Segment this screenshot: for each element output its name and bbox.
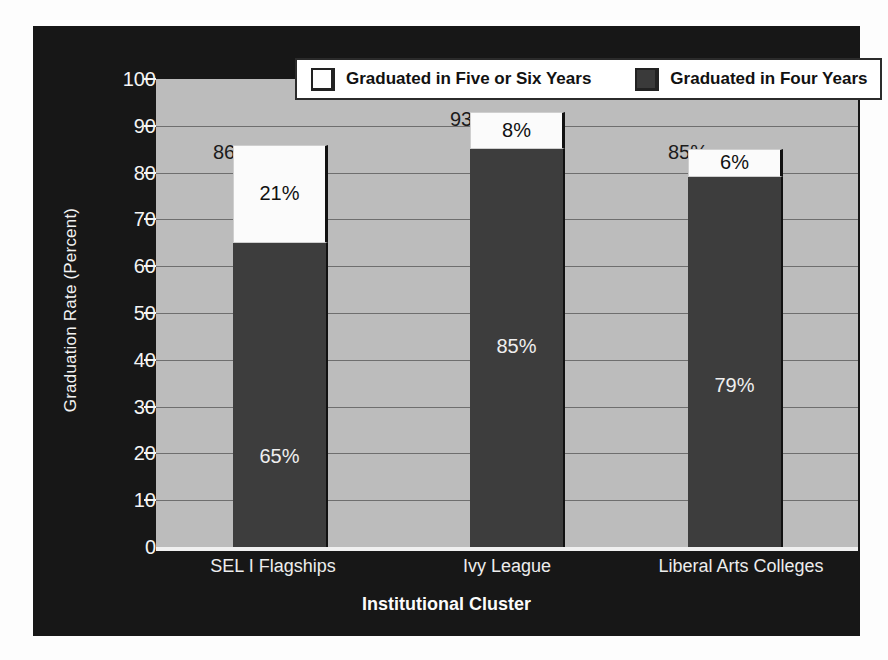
bar-segment-five-six-years-1[interactable]: 8%: [470, 112, 565, 149]
x-tick-label-liberal-arts-colleges: Liberal Arts Colleges: [624, 556, 858, 586]
y-tick-mark-70: [144, 218, 156, 220]
bar-segment-five-six-years-2[interactable]: 6%: [688, 149, 783, 177]
x-tick-label-ivy-league: Ivy League: [390, 556, 624, 586]
bar-segment-four-years-2[interactable]: 79%: [688, 177, 783, 547]
legend-label-five-six-years: Graduated in Five or Six Years: [346, 69, 591, 89]
bar-value-label-four-years-1: 85%: [470, 335, 563, 358]
legend-item-four-years[interactable]: Graduated in Four Years: [635, 68, 867, 91]
legend-item-five-six-years[interactable]: Graduated in Five or Six Years: [311, 68, 591, 91]
bar-ivy-league[interactable]: 85% 8%: [470, 112, 565, 547]
bar-value-label-five-six-years-2: 6%: [689, 151, 780, 174]
legend-swatch-dark-icon: [635, 68, 659, 91]
legend: Graduated in Five or Six Years Graduated…: [295, 58, 882, 100]
y-tick-mark-90: [144, 125, 156, 127]
y-axis: Graduation Rate (Percent) 100 90 80 70 6…: [33, 26, 156, 636]
y-tick-mark-40: [144, 359, 156, 361]
bar-value-label-four-years-2: 79%: [688, 374, 781, 397]
chart-page: Graduation Rate (Percent) 100 90 80 70 6…: [0, 0, 888, 660]
bar-value-label-four-years-0: 65%: [233, 445, 326, 468]
y-tick-mark-30: [144, 406, 156, 408]
y-tick-mark-10: [144, 499, 156, 501]
x-axis-labels: SEL I Flagships Ivy League Liberal Arts …: [156, 556, 858, 586]
y-tick-label-0: 0: [82, 537, 156, 557]
bar-sel-i-flagships[interactable]: 65% 21%: [233, 145, 328, 548]
bar-value-label-five-six-years-0: 21%: [234, 182, 325, 205]
legend-label-four-years: Graduated in Four Years: [670, 69, 867, 89]
chart-panel: Graduation Rate (Percent) 100 90 80 70 6…: [33, 26, 860, 636]
x-axis-title: Institutional Cluster: [33, 594, 860, 615]
y-tick-mark-100: [144, 78, 156, 80]
y-tick-mark-80: [144, 172, 156, 174]
y-tick-mark-20: [144, 452, 156, 454]
x-tick-label-sel-i-flagships: SEL I Flagships: [156, 556, 390, 586]
bar-value-label-five-six-years-1: 8%: [471, 119, 562, 142]
bar-segment-four-years-0[interactable]: 65%: [233, 243, 328, 547]
plot-area: 86% 65% 21% 93% 85% 8% 85%: [156, 79, 858, 547]
legend-swatch-white-icon: [311, 68, 335, 91]
y-axis-title: Graduation Rate (Percent): [61, 160, 81, 460]
bar-segment-five-six-years-0[interactable]: 21%: [233, 145, 328, 243]
y-tick-mark-50: [144, 312, 156, 314]
bar-segment-four-years-1[interactable]: 85%: [470, 149, 565, 547]
y-tick-mark-60: [144, 265, 156, 267]
bar-liberal-arts-colleges[interactable]: 79% 6%: [688, 149, 783, 547]
